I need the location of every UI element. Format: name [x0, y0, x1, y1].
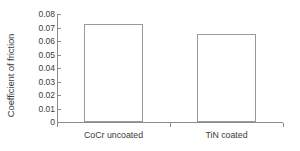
y-axis-tick-label: 0.02 — [22, 91, 55, 100]
y-axis-tick-mark — [58, 41, 61, 42]
plot-area — [57, 14, 283, 122]
y-axis-tick-label: 0.05 — [22, 51, 55, 60]
y-axis-tick-label: 0.04 — [22, 64, 55, 73]
y-axis-tick-label: 0 — [22, 118, 55, 127]
x-axis-category-labels: CoCr uncoatedTiN coated — [57, 130, 283, 144]
bar-chart: Coefficient of friction 00.010.020.030.0… — [0, 0, 300, 151]
y-axis-tick-mark — [58, 82, 61, 83]
y-axis-tick-mark — [58, 68, 61, 69]
y-axis-tick-mark — [58, 14, 61, 15]
y-axis-tick-mark — [58, 55, 61, 56]
y-axis-tick-mark — [58, 95, 61, 96]
y-axis-tick-labels: 00.010.020.030.040.050.060.070.08 — [22, 9, 55, 125]
y-axis-tick-label: 0.07 — [22, 24, 55, 33]
y-axis-tick-mark — [58, 122, 61, 123]
x-axis-tick-mark — [283, 123, 284, 127]
y-axis-tick-label: 0.01 — [22, 105, 55, 114]
y-axis-tick-label: 0.03 — [22, 78, 55, 87]
bar — [84, 24, 143, 122]
x-axis-category-label: TiN coated — [205, 130, 247, 141]
y-axis-tick-label: 0.06 — [22, 37, 55, 46]
bar — [197, 34, 256, 122]
x-axis-tick-mark — [57, 123, 58, 127]
x-axis-category-label: CoCr uncoated — [84, 130, 143, 141]
y-axis-tick-mark — [58, 28, 61, 29]
x-axis-tick-mark — [170, 123, 171, 127]
y-axis-tick-label: 0.08 — [22, 10, 55, 19]
y-axis-tick-mark — [58, 109, 61, 110]
y-axis-title: Coefficient of friction — [0, 10, 20, 141]
